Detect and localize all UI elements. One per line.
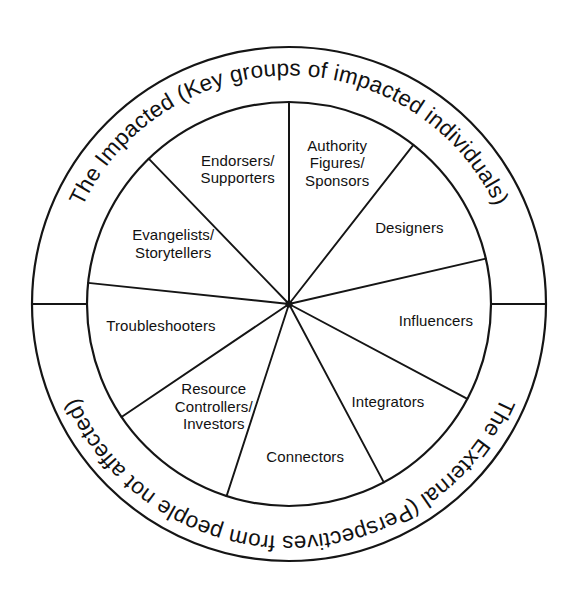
sector-label-line: Resource [181,380,246,397]
sector-label-line: Authority [307,137,367,154]
sector-label-line: Evangelists/ [132,226,215,243]
sector-label-line: Storytellers [135,244,211,261]
sector-label-evangelists-storytellers: Evangelists/Storytellers [132,226,215,260]
sector-label-line: Troubleshooters [106,317,215,334]
sector-label-line: Endorsers/ [201,152,275,169]
sector-label-integrators: Integrators [352,393,425,410]
wheel-svg: AuthorityFigures/SponsorsDesignersInflue… [0,0,573,594]
sector-label-line: Integrators [352,393,425,410]
sector-label-line: Supporters [201,169,275,186]
sector-label-line: Figures/ [310,154,366,171]
sector-label-line: Controllers/ [175,398,254,415]
sector-label-designers: Designers [375,219,443,236]
stakeholder-wheel-diagram: AuthorityFigures/SponsorsDesignersInflue… [0,0,573,594]
sector-spoke [88,283,289,304]
sector-label-troubleshooters: Troubleshooters [106,317,215,334]
sector-label-line: Sponsors [305,172,369,189]
sector-label-line: Investors [183,415,245,432]
sector-label-resource-controllers-investors: ResourceControllers/Investors [175,380,254,432]
sector-label-influencers: Influencers [399,312,473,329]
hub-center-dot [285,300,292,307]
sector-label-connectors: Connectors [266,448,344,465]
sector-label-line: Influencers [399,312,473,329]
sector-label-authority-figures-sponsors: AuthorityFigures/Sponsors [305,137,369,189]
sector-label-line: Designers [375,219,443,236]
bottom-ring-label: The External (Perspectives from people n… [58,395,519,556]
sector-label-endorsers-supporters: Endorsers/Supporters [201,152,276,187]
sector-label-line: Connectors [266,448,344,465]
